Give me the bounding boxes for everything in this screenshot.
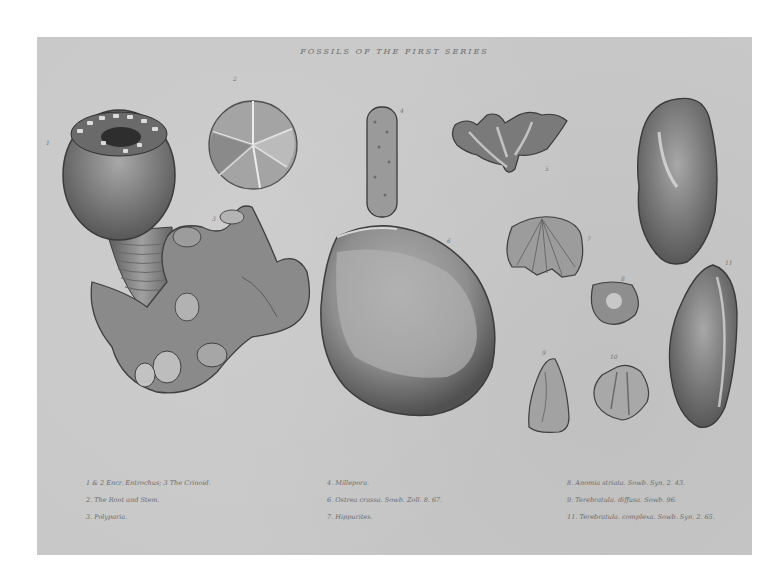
figure-number: 4 bbox=[400, 107, 404, 114]
caption-line: 7. Hippurites. bbox=[327, 509, 442, 526]
specimen-small-terebratula bbox=[591, 282, 638, 324]
specimen-millepore bbox=[367, 107, 397, 217]
caption-line: 2. The Root and Stem. bbox=[86, 492, 211, 509]
figure-number: 3 bbox=[212, 215, 216, 222]
caption-line: 11. Terebratula. complexa. Sowb. Syn. 2.… bbox=[567, 509, 715, 526]
caption-line: 4. Millepora. bbox=[327, 475, 442, 492]
engraved-fossil-plate: FOSSILS OF THE FIRST SERIES bbox=[37, 37, 752, 555]
figure-number: 2 bbox=[233, 75, 237, 82]
caption-line: 1 & 2 Encr. Entrochus; 3 The Crinoid. bbox=[86, 475, 211, 492]
specimen-conical-shell bbox=[529, 359, 569, 433]
figure-number: 5 bbox=[545, 165, 549, 172]
figure-number: 7 bbox=[587, 235, 591, 242]
specimen-crinoid bbox=[63, 110, 177, 309]
figure-number: 11 bbox=[725, 259, 733, 266]
figure-number: 9 bbox=[542, 349, 546, 356]
specimen-radiate-disc bbox=[209, 101, 297, 189]
caption-line: 8. Anomia striata. Sowb. Syn. 2. 43. bbox=[567, 475, 715, 492]
specimen-pentagonal-shell bbox=[594, 365, 649, 420]
figure-number: 8 bbox=[621, 275, 625, 282]
caption-line: 3. Polyparia. bbox=[86, 509, 211, 526]
figure-number: 10 bbox=[610, 353, 618, 360]
caption-column-right: 8. Anomia striata. Sowb. Syn. 2. 43. 9. … bbox=[567, 475, 715, 526]
specimen-large-bivalve bbox=[321, 226, 495, 416]
figure-number: 6 bbox=[447, 237, 451, 244]
specimen-branching-coral bbox=[452, 112, 567, 172]
specimen-elongate-bivalve-lower bbox=[669, 265, 737, 427]
specimen-ribbed-scallop bbox=[507, 217, 583, 277]
caption-column-left: 1 & 2 Encr. Entrochus; 3 The Crinoid. 2.… bbox=[86, 475, 211, 526]
caption-column-middle: 4. Millepora. 6. Ostrea crassa. Sowb. Zo… bbox=[327, 475, 442, 526]
specimen-elongate-bivalve-upper bbox=[638, 98, 717, 264]
caption-line: 9. Terebratula. diffusa. Sowb. 96. bbox=[567, 492, 715, 509]
caption-line: 6. Ostrea crassa. Sowb. Zoll. 8. 67. bbox=[327, 492, 442, 509]
figure-number: 1 bbox=[46, 139, 50, 146]
